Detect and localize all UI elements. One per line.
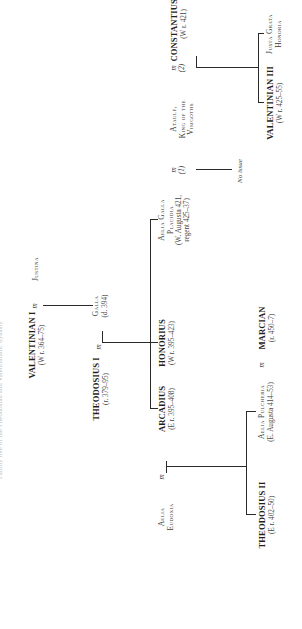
node-aelia-pulcheria: Aelia Pulcheria (E. Augusta 414–53) <box>258 382 275 442</box>
node-ataulf: Ataulf, King of the Visigoths <box>170 100 196 138</box>
marriage-mark: m <box>95 344 103 349</box>
person-name: Placidia <box>167 195 176 245</box>
no-issue-note: No issue <box>236 159 244 183</box>
node-galla: Galla (d. 394) <box>92 295 109 318</box>
person-dates: (W. Augusta 421, <box>175 195 183 245</box>
node-arcadius: ARCADIUS (E r. 395–408) <box>158 386 176 432</box>
person-name: ARCADIUS <box>158 386 168 432</box>
person-dates: (E r. 402–50) <box>268 482 276 549</box>
node-honorius: HONORIUS (W r. 395–423) <box>158 319 176 367</box>
marriage-line <box>166 461 167 473</box>
node-theodosius-ii: THEODOSIUS II (E r. 402–50) <box>258 482 276 549</box>
descent-line <box>246 411 256 412</box>
person-dates: (E r. 395–408) <box>168 386 176 432</box>
person-name: Galla <box>92 295 101 318</box>
person-name: Honoria <box>275 14 284 54</box>
node-valentinian-iii: VALENTINIAN III (W r. 425–55) <box>266 66 284 140</box>
person-name: THEODOSIUS II <box>258 482 268 549</box>
descent-line <box>258 102 264 103</box>
marriage-mark: m <box>31 303 39 308</box>
marriage-order: (2) <box>178 64 186 72</box>
person-dates: (W r. 425–55) <box>276 66 284 140</box>
marriage-mark: m <box>170 64 178 72</box>
person-dates: (d. 394) <box>101 295 109 318</box>
descent-line <box>196 67 258 68</box>
family-tree-page: Family tree of the Theodosian and Valent… <box>0 0 302 629</box>
person-name: Aelia Pulcheria <box>258 382 267 442</box>
person-dates: (E. Augusta 414–53) <box>267 382 275 442</box>
marriage-mark-second: m (2) <box>170 64 187 72</box>
person-name: HONORIUS <box>158 319 168 367</box>
person-dates: (W r. 421) <box>180 0 188 62</box>
node-justa-grata-honoria: Justa Grata Honoria <box>266 14 283 54</box>
sibling-line <box>246 411 247 515</box>
descent-line <box>196 169 232 170</box>
node-justina: Justina <box>32 257 41 281</box>
node-aelia-eudoxia: Aelia Eudoxia <box>158 503 175 530</box>
running-head: Family tree of the Theodosian and Valent… <box>0 321 3 479</box>
sibling-line <box>150 219 151 409</box>
person-name: VALENTINIAN III <box>266 66 276 140</box>
person-name: CONSTANTIUS III <box>170 0 180 62</box>
marriage-order: (1) <box>178 166 186 174</box>
marriage-mark: m <box>170 166 178 174</box>
person-name: MARCIAN <box>258 306 268 349</box>
person-name: Eudoxia <box>167 503 176 530</box>
descent-line <box>246 514 256 515</box>
node-theodosius-i: THEODOSIUS I (r. 379–95) <box>92 357 110 421</box>
descent-line <box>166 466 246 467</box>
descent-line <box>258 33 264 34</box>
node-valentinian-i: VALENTINIAN I (W r. 364–75) <box>28 312 46 379</box>
marriage-mark: m <box>158 474 166 479</box>
person-dates: (r. 450–7) <box>268 306 276 349</box>
node-constantius-iii: CONSTANTIUS III (W r. 421) <box>170 0 188 62</box>
descent-line <box>43 305 93 306</box>
person-dates: (r. 379–95) <box>102 357 110 421</box>
node-marcian: MARCIAN (r. 450–7) <box>258 306 276 349</box>
sibling-line <box>258 33 259 103</box>
marriage-mark-first: m (1) <box>170 166 187 174</box>
person-name: THEODOSIUS I <box>92 357 102 421</box>
node-aelia-galla-placidia: Aelia Galla Placidia (W. Augusta 421, re… <box>158 195 192 245</box>
descent-line <box>102 342 150 343</box>
person-name: Visigoths <box>187 100 196 138</box>
person-name: VALENTINIAN I <box>28 312 38 379</box>
person-dates: (W r. 395–423) <box>168 319 176 367</box>
marriage-mark: m <box>258 362 266 367</box>
person-dates: (W r. 364–75) <box>38 312 46 379</box>
person-dates: regent 425–37) <box>183 195 191 245</box>
